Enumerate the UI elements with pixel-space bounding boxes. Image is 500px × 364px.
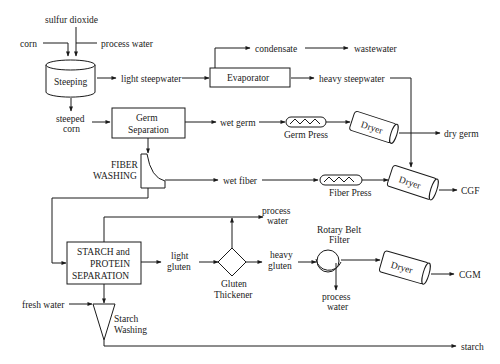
- corn-wet-milling-flow-diagram: sulfur dioxide corn process water Steepi…: [0, 0, 500, 364]
- starch-arrow: [104, 340, 456, 346]
- light-gluten-label-2: gluten: [167, 262, 191, 272]
- starch-protein-label-3: SEPARATION: [72, 271, 129, 281]
- gluten-thickener-label-2: Thickener: [214, 290, 253, 300]
- fiber-press-label: Fiber Press: [329, 188, 372, 198]
- condensate-label: condensate: [255, 44, 297, 54]
- process-water-in-label: process water: [101, 39, 154, 49]
- wastewater-label: wastewater: [354, 44, 398, 54]
- process-water-filter-label-2: water: [327, 302, 349, 312]
- condensate-arrow: [215, 48, 250, 68]
- gluten-thickener-label-1: Gluten: [221, 279, 247, 289]
- process-water-filter-label-1: process: [322, 292, 351, 302]
- evaporator-label: Evaporator: [227, 73, 270, 83]
- fiber-press: Fiber Press: [320, 175, 372, 198]
- light-gluten-label-1: light: [171, 251, 189, 261]
- rotary-belt-filter-label-1: Rotary Belt: [317, 225, 361, 235]
- gluten-dryer: Dryer: [379, 250, 432, 285]
- corn-arrow: [43, 43, 68, 56]
- process-water-thickener-label-2: water: [267, 216, 289, 226]
- steeping-tank: Steeping: [46, 60, 95, 97]
- fiber-dryer: Dryer: [387, 165, 440, 201]
- sulfur-dioxide-label: sulfur dioxide: [45, 15, 98, 25]
- starch-protein-label-2: PROTEIN: [90, 259, 130, 269]
- rotary-belt-filter: Rotary Belt Filter: [316, 225, 361, 272]
- heavy-gluten-label-1: heavy: [270, 250, 293, 260]
- starch-washing-cone: [93, 304, 115, 340]
- starch-protein-label-1: STARCH and: [77, 247, 130, 257]
- heavy-steepwater-label: heavy steepwater: [319, 74, 386, 84]
- corn-label: corn: [20, 39, 37, 49]
- germ-press-label: Germ Press: [284, 130, 328, 140]
- germ-separation-label-1: Germ: [136, 113, 158, 123]
- cgm-label: CGM: [459, 270, 481, 280]
- steeped-corn-label-1: steeped: [56, 114, 85, 124]
- germ-press: Germ Press: [284, 117, 328, 140]
- fiber-washing-label-2: WASHING: [93, 171, 137, 181]
- wet-germ-label: wet germ: [220, 118, 256, 128]
- cgf-label: CGF: [461, 186, 479, 196]
- process-water-recycle: [104, 217, 263, 244]
- germ-dryer: Dryer: [349, 111, 400, 145]
- gluten-thickener: [218, 248, 246, 276]
- dry-germ-label: dry germ: [444, 129, 479, 139]
- light-steepwater-label: light steepwater: [121, 74, 182, 84]
- heavy-gluten-label-2: gluten: [268, 261, 292, 271]
- heavy-steepwater-to-fiber-dryer: [390, 78, 411, 167]
- process-water-thickener-label-1: process: [262, 206, 291, 216]
- starch-washing-label-1: Starch: [114, 314, 139, 324]
- starch-washing-label-2: Washing: [114, 325, 147, 335]
- steeped-corn-label-2: corn: [63, 124, 80, 134]
- starch-label: starch: [461, 342, 484, 352]
- fiber-washing-screen: [141, 154, 165, 188]
- steeping-label: Steeping: [54, 77, 87, 87]
- fresh-water-label: fresh water: [22, 300, 65, 310]
- germ-separation-label-2: Separation: [128, 125, 169, 135]
- wet-fiber-label: wet fiber: [223, 176, 258, 186]
- rotary-belt-filter-label-2: Filter: [329, 235, 350, 245]
- fiber-washing-label-1: FIBER: [111, 160, 139, 170]
